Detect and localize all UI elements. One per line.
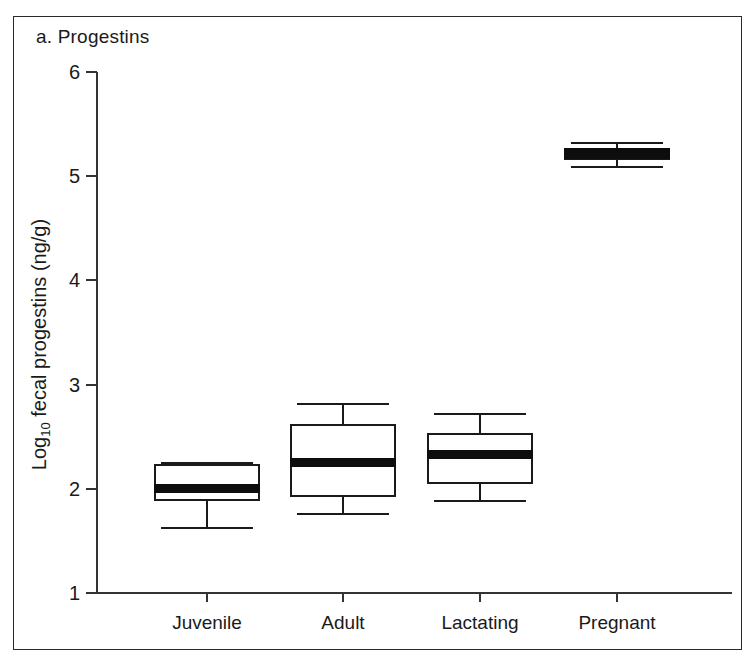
x-tick-label-adult: Adult: [321, 612, 364, 634]
x-axis-line: [96, 592, 732, 594]
whisker-upper-stem: [342, 403, 344, 424]
x-tick-juvenile: [206, 592, 208, 602]
x-tick-label-juvenile: Juvenile: [172, 612, 242, 634]
x-tick-label-lactating: Lactating: [441, 612, 518, 634]
x-tick-lactating: [479, 592, 481, 602]
whisker-lower-stem: [342, 497, 344, 513]
median-line: [427, 450, 533, 459]
figure-panel: a. Progestins 123456 JuvenileAdultLactat…: [0, 0, 756, 668]
whisker-lower-cap: [297, 513, 389, 515]
whisker-lower-cap: [571, 166, 663, 168]
x-tick-label-pregnant: Pregnant: [578, 612, 655, 634]
whisker-lower-cap: [434, 500, 526, 502]
whisker-upper-cap: [297, 403, 389, 405]
y-axis-line: [96, 72, 98, 594]
box-iqr: [154, 464, 260, 502]
y-tick-label-1: 1: [44, 582, 80, 605]
boxplot-chart: 123456 JuvenileAdultLactatingPregnant Lo…: [0, 0, 756, 668]
y-tick-label-6: 6: [44, 61, 80, 84]
median-line: [290, 458, 396, 467]
median-line: [154, 484, 260, 493]
y-axis-title-subscript: 10: [38, 422, 53, 436]
whisker-lower-stem: [206, 501, 208, 527]
y-tick-5: [86, 175, 97, 177]
median-line: [564, 148, 670, 159]
y-tick-4: [86, 279, 97, 281]
y-axis-title: Log10 fecal progestins (ng/g): [28, 135, 51, 555]
x-tick-adult: [342, 592, 344, 602]
whisker-upper-stem: [479, 413, 481, 433]
whisker-lower-stem: [479, 484, 481, 501]
whisker-upper-cap: [571, 142, 663, 144]
y-tick-1: [86, 592, 97, 594]
x-tick-pregnant: [616, 592, 618, 602]
y-tick-3: [86, 384, 97, 386]
y-tick-6: [86, 71, 97, 73]
y-axis-title-base: Log: [28, 437, 50, 470]
y-tick-2: [86, 488, 97, 490]
whisker-upper-cap: [434, 413, 526, 415]
whisker-lower-cap: [161, 527, 253, 529]
y-axis-title-rest: fecal progestins (ng/g): [28, 219, 50, 422]
